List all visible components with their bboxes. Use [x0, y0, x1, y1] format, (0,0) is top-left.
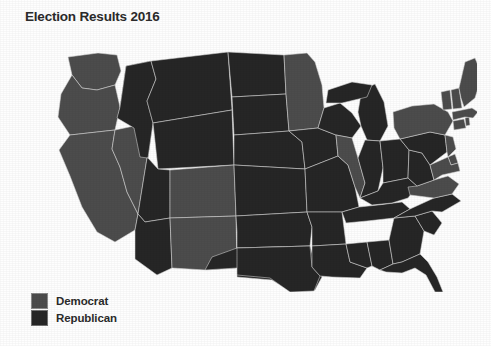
democrat-swatch	[31, 293, 48, 309]
state-SD[interactable]	[232, 94, 289, 135]
state-AR[interactable]	[307, 212, 346, 246]
legend: Democrat Republican	[31, 292, 181, 326]
state-ND[interactable]	[228, 52, 286, 97]
legend-label-republican: Republican	[56, 310, 117, 326]
state-CO[interactable]	[170, 165, 236, 218]
us-choropleth-map[interactable]	[22, 42, 477, 292]
state-AZ[interactable]	[135, 214, 172, 275]
state-RI[interactable]	[465, 117, 470, 126]
state-VT[interactable]	[441, 90, 452, 110]
legend-item-democrat[interactable]: Democrat	[31, 292, 181, 309]
state-NE[interactable]	[234, 131, 305, 169]
us-map-svg[interactable]	[22, 42, 477, 292]
legend-label-democrat: Democrat	[56, 293, 108, 309]
state-MA[interactable]	[452, 108, 477, 120]
state-NJ[interactable]	[445, 135, 456, 157]
state-MN[interactable]	[284, 53, 324, 131]
election-map-figure: Election Results 2016	[0, 0, 491, 346]
state-ME[interactable]	[459, 58, 477, 107]
state-CT[interactable]	[453, 119, 466, 130]
state-TX2[interactable]	[237, 246, 320, 292]
state-OK[interactable]	[236, 212, 312, 248]
page-title: Election Results 2016	[25, 9, 160, 24]
legend-item-republican[interactable]: Republican	[31, 309, 181, 326]
republican-swatch	[31, 310, 48, 326]
state-KS[interactable]	[234, 165, 307, 216]
state-OH[interactable]	[380, 139, 409, 183]
